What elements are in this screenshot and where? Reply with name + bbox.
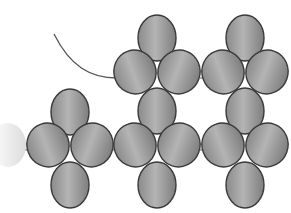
beadwork-diagram [0,0,291,213]
bead-bottom [51,162,89,208]
bead-bottom [226,162,264,208]
bead-bottom [138,162,176,208]
